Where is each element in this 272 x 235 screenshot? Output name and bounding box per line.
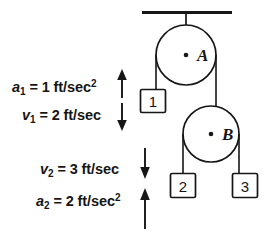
annotation-a2-subscript: 2	[44, 200, 49, 211]
annotation-v2-symbol: v	[40, 161, 48, 177]
annotation-v1-subscript: 1	[30, 114, 35, 125]
arrow-a1-up	[117, 69, 127, 98]
annotation-v1-unit: ft/sec	[64, 107, 101, 123]
annotation-a2: a2 = 2 ft/sec2	[36, 192, 120, 211]
arrow-a1-head	[117, 69, 127, 80]
pulley-a-label: A	[196, 46, 208, 65]
annotation-a2-equals: =	[53, 193, 61, 209]
annotation-a2-value: 2	[66, 193, 74, 209]
arrow-a2-up	[140, 188, 150, 229]
pulley-b: B	[183, 106, 239, 162]
annotation-a1-value: 1	[42, 79, 50, 95]
annotation-a1-subscript: 1	[20, 86, 25, 97]
block-1: 1	[141, 90, 166, 113]
annotation-v2-subscript: 2	[48, 168, 53, 179]
block-1-label: 1	[149, 93, 157, 110]
annotation-v2-value: 3	[70, 161, 78, 177]
annotation-v2: v2 = 3 ft/sec	[40, 161, 119, 179]
annotation-a1-equals: =	[29, 79, 37, 95]
annotation-a1-unit: ft/sec	[54, 79, 91, 95]
block-3-label: 3	[241, 178, 249, 195]
annotation-v1-symbol: v	[22, 107, 30, 123]
annotation-v2-unit: ft/sec	[82, 161, 119, 177]
annotation-a2-unit: ft/sec	[78, 193, 115, 209]
annotation-v2-equals: =	[57, 161, 65, 177]
annotation-a2-symbol: a	[36, 193, 44, 209]
pulley-diagram-figure: A 1 B 2 3	[0, 0, 272, 235]
annotation-a1: a1 = 1 ft/sec2	[12, 78, 96, 97]
annotation-v1: v1 = 2 ft/sec	[22, 107, 101, 125]
arrow-v1-down	[117, 103, 127, 131]
annotation-v1-value: 2	[52, 107, 60, 123]
annotation-a1-symbol: a	[12, 79, 20, 95]
pulley-b-label: B	[221, 125, 233, 144]
block-2: 2	[171, 174, 196, 198]
arrow-v2-head	[140, 167, 150, 179]
pulley-a: A	[156, 25, 216, 85]
annotation-a1-exponent: 2	[91, 78, 96, 89]
arrow-v1-head	[117, 120, 127, 131]
arrow-v2-down	[140, 148, 150, 179]
block-2-label: 2	[179, 178, 187, 195]
arrow-a2-head	[140, 188, 150, 200]
annotation-v1-equals: =	[39, 107, 47, 123]
pulley-b-axle-dot	[209, 132, 214, 137]
pulley-a-axle-dot	[184, 53, 189, 58]
block-3: 3	[233, 174, 258, 198]
annotation-a2-exponent: 2	[115, 192, 120, 203]
